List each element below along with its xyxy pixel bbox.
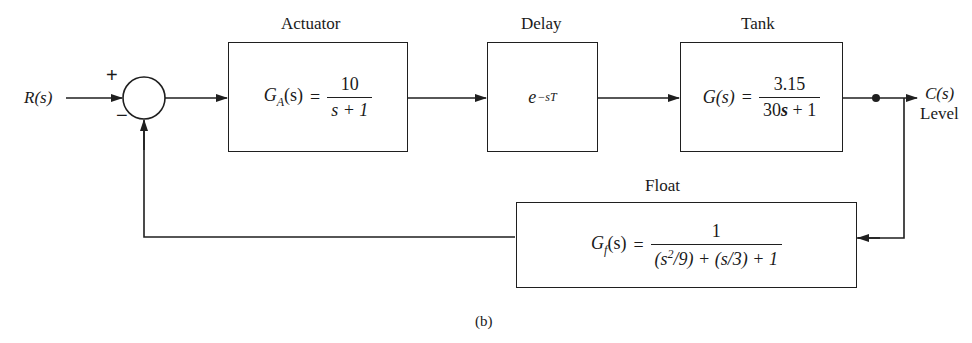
minus-sign: − (116, 104, 128, 127)
figure-caption: (b) (475, 313, 493, 330)
actuator-transfer-function: GA(s) = 10 s + 1 (264, 74, 373, 121)
float-transfer-function: Gf(s) = 1 (s2/9) + (s/3) + 1 (591, 221, 782, 270)
plus-sign: + (106, 64, 118, 87)
summing-junction (123, 77, 165, 119)
float-fraction: 1 (s2/9) + (s/3) + 1 (651, 221, 782, 270)
pickoff-point (872, 94, 880, 102)
actuator-title: Actuator (281, 14, 340, 34)
tank-title: Tank (741, 14, 775, 34)
actuator-fraction: 10 s + 1 (327, 74, 372, 121)
tank-transfer-function: G(s) = 3.15 30s + 1 (703, 74, 820, 121)
delay-title: Delay (521, 14, 562, 34)
float-block: Gf(s) = 1 (s2/9) + (s/3) + 1 (516, 202, 857, 288)
delay-transfer-function: e−sT (528, 87, 556, 108)
feedback-pickoff-wire (857, 98, 904, 238)
output-sublabel: Level (920, 104, 959, 124)
input-label: R(s) (24, 88, 52, 108)
float-title: Float (645, 176, 680, 196)
tank-fraction: 3.15 30s + 1 (759, 74, 820, 121)
actuator-lhs: GA(s) (264, 85, 303, 110)
actuator-block: GA(s) = 10 s + 1 (228, 42, 408, 152)
output-label: C(s) (925, 84, 954, 104)
delay-block: e−sT (487, 42, 598, 152)
tank-block: G(s) = 3.15 30s + 1 (680, 42, 843, 152)
